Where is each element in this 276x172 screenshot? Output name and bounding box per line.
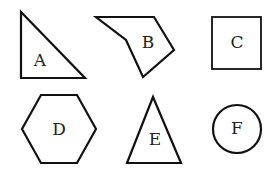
shape-c-label: C xyxy=(230,32,243,52)
shapes-svg: A B C D E F xyxy=(0,0,276,172)
shape-c: C xyxy=(212,17,261,69)
shape-b: B xyxy=(96,17,174,77)
shape-f: F xyxy=(213,105,261,153)
shape-d: D xyxy=(22,95,96,163)
shape-b-label: B xyxy=(142,32,155,52)
shape-e-label: E xyxy=(149,129,161,149)
shape-d-label: D xyxy=(52,119,66,139)
shape-a: A xyxy=(21,12,85,78)
shape-f-label: F xyxy=(231,118,243,138)
pentagon-shape xyxy=(96,17,174,77)
shapes-diagram: A B C D E F xyxy=(0,0,276,172)
shape-a-label: A xyxy=(33,50,47,70)
right-triangle-shape xyxy=(21,12,85,78)
shape-e: E xyxy=(127,97,181,163)
